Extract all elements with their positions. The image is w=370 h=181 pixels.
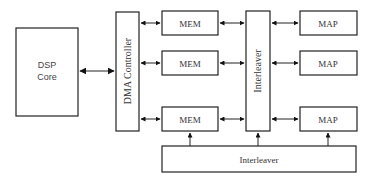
map-label-1: MAP (318, 19, 338, 29)
dsp-core-label-line1: DSP (38, 60, 57, 70)
map-label-3: MAP (318, 115, 338, 125)
dsp-core-label-line2: Core (37, 72, 57, 82)
interleaver-vertical-label: Interleaver (252, 49, 263, 93)
dsp-core-block: DSP Core (16, 28, 78, 116)
map-block-3: MAP (300, 107, 357, 131)
mem-label-1: MEM (179, 19, 201, 29)
mem-block-3: MEM (162, 107, 218, 131)
dma-controller-label: DMA Controller (122, 37, 133, 104)
dma-controller-block: DMA Controller (116, 12, 139, 131)
interleaver-bottom-block: Interleaver (162, 146, 356, 172)
mem-block-2: MEM (162, 51, 218, 75)
map-label-2: MAP (318, 59, 338, 69)
map-block-2: MAP (300, 51, 357, 75)
map-block-1: MAP (300, 11, 357, 35)
mem-block-1: MEM (162, 11, 218, 35)
mem-label-2: MEM (179, 59, 201, 69)
interleaver-vertical-block: Interleaver (246, 11, 270, 131)
mem-label-3: MEM (179, 115, 201, 125)
interleaver-bottom-label: Interleaver (240, 155, 279, 165)
block-diagram: DSP Core DMA Controller MEM MEM MEM Inte… (0, 0, 370, 181)
